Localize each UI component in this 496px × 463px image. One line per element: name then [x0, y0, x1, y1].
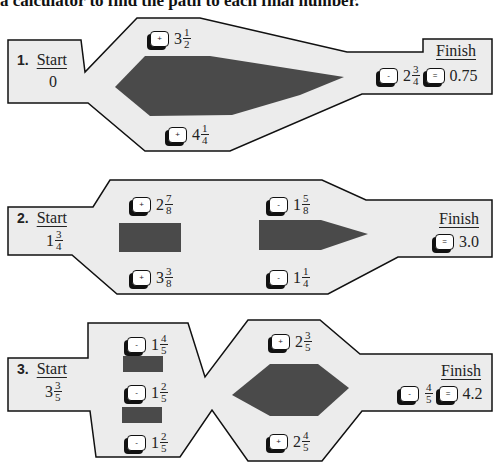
plus-key-icon: +	[132, 270, 151, 286]
start-label: Start	[37, 51, 67, 68]
denominator: 5	[426, 394, 432, 405]
puzzle-3-right-bottom-step[interactable]: + 245	[266, 430, 310, 453]
denominator: 5	[303, 442, 309, 453]
puzzle-1-bottom-step[interactable]: + 414	[165, 123, 209, 146]
denominator: 8	[303, 205, 309, 216]
whole: 2	[295, 333, 303, 351]
puzzle-1-start-label: 1. Start	[17, 52, 67, 68]
whole: 3	[156, 269, 164, 287]
equals-key-icon: =	[426, 68, 445, 84]
whole: 2	[403, 67, 411, 85]
puzzle-2-start-value: 134	[46, 229, 63, 252]
plus-key-icon: +	[132, 197, 151, 213]
minus-key-icon: -	[379, 68, 398, 84]
whole: 1	[151, 384, 159, 402]
start-label: Start	[37, 209, 67, 226]
puzzle-2-panel	[8, 180, 492, 294]
puzzle-2-top-right-step[interactable]: - 158	[266, 193, 310, 216]
puzzle-1-top-step[interactable]: + 312	[147, 27, 191, 50]
denominator: 4	[202, 135, 208, 146]
result-value: 0.75	[450, 67, 478, 85]
puzzle-3-blocked-rect-top	[123, 356, 163, 372]
puzzle-2-finish-row[interactable]: = 3.0	[432, 233, 479, 251]
puzzle-2-start-label: 2. Start	[17, 210, 67, 226]
denominator: 5	[161, 443, 167, 454]
minus-key-icon: -	[400, 386, 419, 402]
denominator: 8	[166, 278, 172, 289]
denominator: 5	[161, 393, 167, 404]
puzzle-3-start-label: 3. Start	[17, 361, 67, 377]
denominator: 2	[184, 39, 190, 50]
minus-key-icon: -	[127, 435, 146, 451]
puzzle-3-right-top-step[interactable]: + 235	[268, 330, 312, 353]
equals-key-icon: =	[435, 234, 454, 250]
result-value: 3.0	[459, 233, 479, 251]
whole: 2	[156, 196, 164, 214]
whole: 1	[293, 196, 301, 214]
puzzle-2-bottom-left-step[interactable]: + 338	[129, 266, 173, 289]
puzzle-1-finish-row[interactable]: - 234 = 0.75	[376, 64, 478, 87]
whole: 3	[45, 383, 53, 401]
puzzle-number: 3.	[17, 361, 29, 377]
puzzle-1-start-value: 0	[49, 74, 57, 90]
minus-key-icon: -	[127, 337, 146, 353]
puzzle-number: 2.	[17, 210, 29, 226]
minus-key-icon: -	[269, 270, 288, 286]
puzzle-1-finish-label: Finish	[436, 43, 476, 59]
puzzle-number: 1.	[17, 52, 29, 68]
puzzle-3-finish-row[interactable]: - 45 = 4.2	[397, 382, 483, 405]
puzzle-2-finish-label: Finish	[439, 211, 479, 227]
denominator: 5	[305, 342, 311, 353]
puzzle-3-start-value: 335	[45, 380, 62, 403]
puzzle-3-blocked-rect-bottom	[122, 407, 162, 423]
denominator: 5	[55, 392, 61, 403]
equals-key-icon: =	[439, 386, 458, 402]
denominator: 4	[56, 241, 62, 252]
denominator: 8	[166, 205, 172, 216]
puzzle-2-top-left-step[interactable]: + 278	[129, 193, 173, 216]
puzzle-3-finish-label: Finish	[441, 363, 481, 379]
plus-key-icon: +	[271, 334, 290, 350]
start-label: Start	[37, 360, 67, 377]
puzzle-3-left-bottom-step[interactable]: - 125	[124, 431, 168, 454]
whole: 2	[293, 433, 301, 451]
minus-key-icon: -	[127, 385, 146, 401]
whole: 1	[151, 336, 159, 354]
puzzle-3-left-middle-step[interactable]: - 125	[124, 381, 168, 404]
minus-key-icon: -	[269, 197, 288, 213]
plus-key-icon: +	[168, 127, 187, 143]
puzzle-2-bottom-right-step[interactable]: - 114	[266, 266, 310, 289]
whole: 3	[174, 30, 182, 48]
result-value: 4.2	[463, 385, 483, 403]
denominator: 5	[161, 345, 167, 356]
whole: 1	[46, 232, 54, 250]
whole: 1	[151, 434, 159, 452]
puzzle-3-left-top-step[interactable]: - 145	[124, 333, 168, 356]
plus-key-icon: +	[269, 434, 288, 450]
puzzle-2-blocked-rect	[119, 223, 181, 252]
denominator: 4	[303, 278, 309, 289]
whole: 4	[192, 126, 200, 144]
plus-key-icon: +	[150, 31, 169, 47]
whole: 1	[293, 269, 301, 287]
denominator: 4	[413, 76, 419, 87]
